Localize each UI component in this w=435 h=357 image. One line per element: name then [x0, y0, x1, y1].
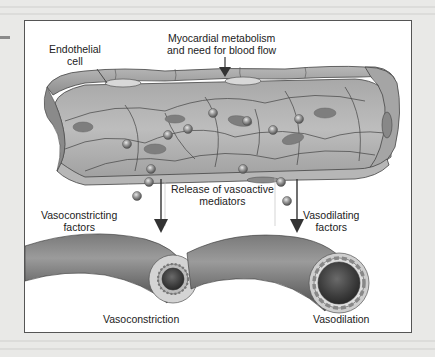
- figure-frame: Endothelial cell Myocardial metabolism a…: [24, 20, 412, 333]
- background-text-line: [0, 340, 435, 342]
- opened-blood-vessel: [44, 66, 399, 185]
- vasoconstricting-arrow-icon: [154, 179, 168, 233]
- vasodilation-label: Vasodilation: [313, 313, 369, 325]
- vasodilating-factors-label: Vasodilating factors: [303, 209, 359, 233]
- background-text-line: [0, 6, 435, 8]
- background-text-line: [0, 13, 435, 15]
- dilated-vessel: [187, 235, 369, 313]
- page-pointer-arrow-icon: [0, 36, 10, 39]
- endothelial-cell-label: Endothelial cell: [49, 43, 101, 67]
- release-mediators-label: Release of vasoactive mediators: [171, 183, 274, 207]
- vessel-illustration: [25, 21, 411, 332]
- vasoconstriction-label: Vasoconstriction: [103, 313, 179, 325]
- myocardial-metabolism-label: Myocardial metabolism and need for blood…: [167, 32, 276, 56]
- constricted-vessel: [25, 234, 197, 303]
- vasoconstricting-factors-label: Vasoconstricting factors: [41, 209, 117, 233]
- background-text-line: [0, 348, 435, 350]
- vasodilating-arrow-icon: [290, 179, 304, 233]
